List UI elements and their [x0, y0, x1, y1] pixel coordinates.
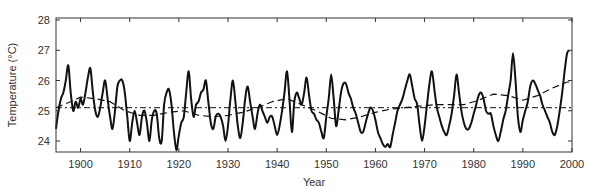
y-tick-label: 25 — [38, 105, 50, 117]
x-tick-label: 1910 — [117, 158, 141, 170]
x-tick-label: 1960 — [363, 158, 387, 170]
x-tick-label: 1920 — [167, 158, 191, 170]
x-axis-ticks: 1900191019201930194019501960197019801990… — [68, 18, 584, 170]
x-tick-label: 1980 — [461, 158, 485, 170]
y-axis-title: Temperature (°C) — [6, 43, 18, 127]
y-tick-label: 24 — [38, 135, 50, 147]
x-axis-title: Year — [303, 176, 326, 188]
x-tick-label: 1950 — [314, 158, 338, 170]
x-tick-label: 1990 — [511, 158, 535, 170]
x-tick-label: 1930 — [216, 158, 240, 170]
x-tick-label: 1900 — [68, 158, 92, 170]
temperature-chart: 1900191019201930194019501960197019801990… — [0, 0, 603, 194]
plot-area — [56, 50, 572, 150]
temperature-line — [56, 50, 570, 150]
x-tick-label: 1970 — [412, 158, 436, 170]
y-tick-label: 28 — [38, 14, 50, 26]
x-tick-label: 1940 — [265, 158, 289, 170]
y-tick-label: 27 — [38, 44, 50, 56]
x-tick-label: 2000 — [560, 158, 584, 170]
y-tick-label: 26 — [38, 75, 50, 87]
